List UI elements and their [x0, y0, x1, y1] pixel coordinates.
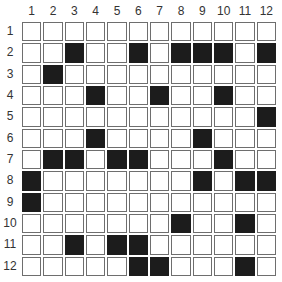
grid-cell-filled — [193, 43, 212, 62]
grid-cell-empty — [150, 22, 169, 41]
grid-cell-empty — [257, 193, 276, 212]
grid-cell-empty — [43, 129, 62, 148]
grid-cell-empty — [257, 235, 276, 254]
column-label: 7 — [149, 3, 170, 19]
grid-cell-empty — [86, 257, 105, 276]
grid-cell-filled — [129, 235, 148, 254]
grid-cell-empty — [22, 150, 41, 169]
grid-cell-empty — [22, 65, 41, 84]
grid-cell-empty — [43, 171, 62, 190]
grid-cell-empty — [257, 257, 276, 276]
grid-cell-empty — [22, 257, 41, 276]
grid-cell-empty — [107, 214, 126, 233]
grid-cell-empty — [107, 107, 126, 126]
grid-cell-filled — [86, 129, 105, 148]
grid-cell-empty — [86, 107, 105, 126]
grid-cell-empty — [214, 22, 233, 41]
grid-cell-empty — [150, 43, 169, 62]
column-label: 1 — [21, 3, 42, 19]
grid-cell-empty — [65, 65, 84, 84]
grid-cell-empty — [65, 257, 84, 276]
grid-cell-empty — [171, 257, 190, 276]
column-label: 3 — [64, 3, 85, 19]
grid-cell-empty — [107, 193, 126, 212]
cell-grid — [21, 21, 277, 277]
grid-cell-empty — [171, 107, 190, 126]
grid-cell-filled — [257, 171, 276, 190]
grid-cell-empty — [193, 214, 212, 233]
grid-cell-empty — [129, 22, 148, 41]
grid-cell-empty — [214, 193, 233, 212]
grid-cell-filled — [171, 43, 190, 62]
grid-cell-empty — [22, 43, 41, 62]
row-labels: 123456789101112 — [0, 21, 20, 277]
grid-cell-empty — [43, 193, 62, 212]
grid-cell-empty — [150, 214, 169, 233]
grid-cell-empty — [171, 235, 190, 254]
grid-cell-empty — [150, 235, 169, 254]
grid-cell-empty — [235, 86, 254, 105]
grid-cell-empty — [214, 107, 233, 126]
grid-cell-filled — [129, 150, 148, 169]
grid-cell-empty — [235, 193, 254, 212]
grid-cell-empty — [257, 150, 276, 169]
grid-cell-empty — [43, 214, 62, 233]
grid-cell-empty — [193, 86, 212, 105]
grid-cell-empty — [86, 43, 105, 62]
grid-cell-filled — [22, 193, 41, 212]
grid-cell-empty — [43, 86, 62, 105]
grid-cell-empty — [257, 22, 276, 41]
grid-cell-empty — [86, 214, 105, 233]
row-label: 9 — [0, 192, 20, 213]
grid-cell-empty — [193, 257, 212, 276]
grid-cell-empty — [129, 107, 148, 126]
grid-cell-empty — [171, 22, 190, 41]
column-labels: 123456789101112 — [21, 3, 277, 19]
grid-cell-empty — [65, 171, 84, 190]
grid-cell-filled — [129, 43, 148, 62]
grid-cell-filled — [214, 86, 233, 105]
grid-cell-empty — [214, 214, 233, 233]
grid-cell-empty — [193, 150, 212, 169]
grid-cell-filled — [107, 235, 126, 254]
grid-cell-filled — [235, 257, 254, 276]
grid-cell-empty — [86, 150, 105, 169]
grid-cell-filled — [65, 43, 84, 62]
grid-cell-empty — [193, 107, 212, 126]
grid-cell-empty — [171, 65, 190, 84]
grid-cell-empty — [43, 257, 62, 276]
row-label: 7 — [0, 149, 20, 170]
grid-cell-empty — [22, 214, 41, 233]
grid-cell-empty — [214, 65, 233, 84]
grid-cell-empty — [107, 171, 126, 190]
grid-cell-empty — [65, 107, 84, 126]
row-label: 10 — [0, 213, 20, 234]
grid-cell-filled — [214, 43, 233, 62]
column-label: 5 — [106, 3, 127, 19]
grid-cell-filled — [65, 235, 84, 254]
row-label: 11 — [0, 234, 20, 255]
grid-cell-filled — [257, 107, 276, 126]
grid-cell-empty — [150, 150, 169, 169]
grid-cell-filled — [257, 43, 276, 62]
grid-cell-filled — [43, 150, 62, 169]
grid-cell-empty — [193, 22, 212, 41]
grid-cell-empty — [22, 235, 41, 254]
grid-cell-empty — [235, 150, 254, 169]
grid-cell-empty — [65, 22, 84, 41]
grid-cell-empty — [107, 22, 126, 41]
grid-cell-empty — [86, 65, 105, 84]
grid-cell-empty — [171, 193, 190, 212]
grid-cell-empty — [214, 235, 233, 254]
grid-cell-empty — [107, 43, 126, 62]
grid-cell-empty — [107, 129, 126, 148]
row-label: 12 — [0, 256, 20, 277]
grid-cell-empty — [171, 129, 190, 148]
grid-cell-empty — [171, 150, 190, 169]
grid-cell-filled — [193, 171, 212, 190]
row-label: 6 — [0, 128, 20, 149]
grid-cell-empty — [214, 257, 233, 276]
grid-cell-empty — [214, 129, 233, 148]
grid-cell-filled — [150, 86, 169, 105]
grid-cell-empty — [235, 65, 254, 84]
